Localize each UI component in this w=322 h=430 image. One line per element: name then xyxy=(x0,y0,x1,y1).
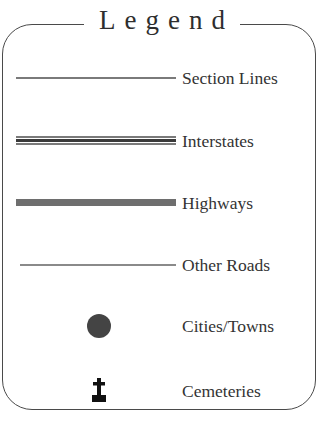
legend-item-label: Other Roads xyxy=(182,250,270,280)
section-line-icon xyxy=(16,77,176,79)
other-road-line-icon xyxy=(20,264,176,266)
legend-item-label: Section Lines xyxy=(182,63,278,93)
legend-item-label: Highways xyxy=(182,188,253,218)
legend-item-label: Cemeteries xyxy=(182,376,261,406)
legend-item-cemeteries: Cemeteries xyxy=(0,376,322,406)
highway-line-icon xyxy=(16,199,176,206)
legend-item-cities-towns: Cities/Towns xyxy=(0,311,322,341)
legend-item-highways: Highways xyxy=(0,188,322,218)
interstate-line-icon xyxy=(16,136,176,145)
legend-item-interstates: Interstates xyxy=(0,126,322,156)
legend-title: Legend xyxy=(84,0,240,40)
legend-item-other-roads: Other Roads xyxy=(0,250,322,280)
legend-item-section-lines: Section Lines xyxy=(0,63,322,93)
legend-item-label: Cities/Towns xyxy=(182,311,274,341)
city-dot-icon xyxy=(87,314,111,338)
cemetery-cross-icon xyxy=(91,378,107,402)
legend-item-label: Interstates xyxy=(182,126,254,156)
